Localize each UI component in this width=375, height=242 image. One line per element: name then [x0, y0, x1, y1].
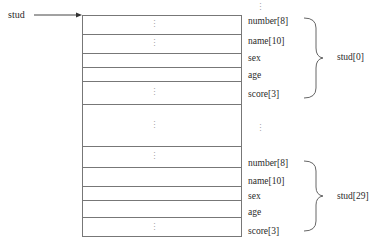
ellipsis-icon: ··· [153, 87, 155, 96]
row-divider [82, 15, 242, 16]
row-divider [82, 217, 242, 218]
ellipsis-icon: ··· [259, 2, 261, 11]
field-label-number: number[8] [248, 16, 288, 26]
field-label-name: name[10] [248, 36, 284, 46]
ellipsis-icon: ··· [153, 38, 155, 47]
field-label-number: number[8] [248, 158, 288, 168]
row-divider [82, 146, 242, 147]
ellipsis-icon: ··· [153, 19, 155, 28]
ellipsis-icon: ··· [153, 151, 155, 160]
field-label-sex: sex [248, 53, 261, 63]
field-label-sex: sex [248, 191, 261, 201]
row-divider [82, 200, 242, 201]
row-divider [82, 53, 242, 54]
field-label-score: score[3] [248, 226, 279, 236]
ellipsis-icon: ··· [153, 222, 155, 231]
row-divider [82, 167, 242, 168]
brace-stud0-icon [304, 18, 323, 98]
row-divider [82, 67, 242, 68]
ellipsis-icon: ··· [259, 123, 261, 132]
row-divider [82, 186, 242, 187]
row-divider [82, 34, 242, 35]
field-label-age: age [248, 70, 261, 80]
field-label-score: score[3] [248, 89, 279, 99]
brace-stud29-icon [304, 161, 323, 231]
row-divider [82, 81, 242, 82]
memory-block [82, 15, 242, 237]
row-divider [82, 236, 242, 237]
field-label-name: name[10] [248, 176, 284, 186]
field-label-age: age [248, 207, 261, 217]
row-divider [82, 104, 242, 105]
group-label-stud0: stud[0] [337, 52, 364, 62]
group-label-stud29: stud[29] [337, 191, 369, 201]
ellipsis-icon: ··· [153, 120, 155, 129]
